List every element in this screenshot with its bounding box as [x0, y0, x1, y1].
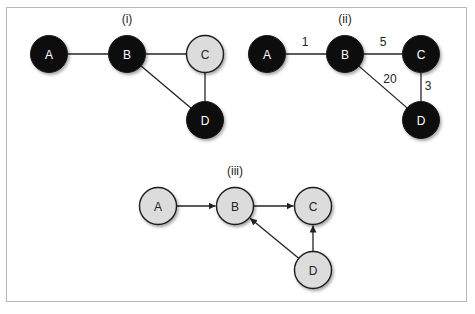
node-a: A: [249, 36, 286, 73]
node-d: D: [187, 102, 224, 139]
node-label: A: [45, 48, 53, 62]
graph-i: (i)ABCD: [31, 12, 224, 139]
edge-weight-label: 5: [380, 35, 387, 49]
node-label: A: [263, 48, 271, 62]
node-label: B: [341, 48, 349, 62]
edge-weight-label: 20: [383, 72, 397, 86]
node-c: C: [295, 188, 332, 225]
node-b: B: [217, 188, 254, 225]
node-label: D: [201, 114, 210, 128]
node-label: D: [417, 114, 426, 128]
edge-d-b: [250, 218, 299, 258]
graph-diagrams: (i)ABCD (ii)15203ABCD (iii)ABCD: [0, 0, 475, 314]
node-label: D: [309, 264, 318, 278]
node-label: A: [154, 200, 162, 214]
node-a: A: [31, 36, 68, 73]
node-label: B: [231, 200, 239, 214]
edge-weight-label: 1: [302, 35, 309, 49]
node-d: D: [295, 252, 332, 289]
node-d: D: [403, 102, 440, 139]
diagram-title: (ii): [338, 12, 351, 26]
node-b: B: [327, 36, 364, 73]
graph-iii-directed: (iii)ABCD: [140, 164, 332, 289]
node-b: B: [109, 36, 146, 73]
diagram-title: (i): [122, 12, 133, 26]
node-a: A: [140, 188, 177, 225]
graph-ii-weighted: (ii)15203ABCD: [249, 12, 440, 139]
node-label: C: [201, 48, 210, 62]
node-c: C: [187, 36, 224, 73]
node-label: B: [123, 48, 131, 62]
edge-weight-label: 3: [425, 79, 432, 93]
edge-b-d: [141, 66, 191, 108]
node-label: C: [417, 48, 426, 62]
diagram-title: (iii): [227, 164, 243, 178]
node-c: C: [403, 36, 440, 73]
node-label: C: [309, 200, 318, 214]
